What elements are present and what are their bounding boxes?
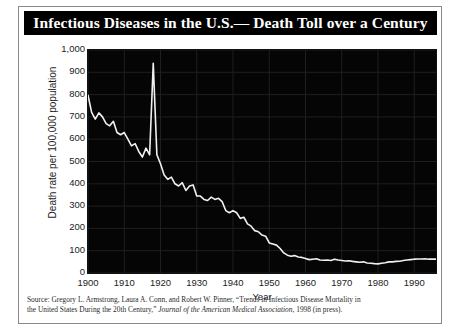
y-tick-label: 300 <box>39 200 85 210</box>
source-line-2: the United States During the 20th Centur… <box>27 305 431 315</box>
source-line-2-text-c: , 1998 (in press). <box>292 305 342 314</box>
y-tick-label: 900 <box>39 66 85 76</box>
x-tick-label: 1940 <box>213 277 253 288</box>
x-tick-label: 1950 <box>249 277 289 288</box>
y-axis-tick-labels: 01002003004005006007008009001,000 <box>35 37 85 286</box>
figure-panel: Infectious Diseases in the U.S.— Death T… <box>18 6 442 324</box>
source-line-1: Source: Gregory L. Armstrong, Laura A. C… <box>27 295 431 305</box>
y-tick-label: 1,000 <box>39 44 85 54</box>
x-tick-label: 1910 <box>104 277 144 288</box>
page-title: Infectious Diseases in the U.S.— Death T… <box>33 14 427 32</box>
chart-title-bar: Infectious Diseases in the U.S.— Death T… <box>24 11 437 35</box>
y-tick-label: 600 <box>39 133 85 143</box>
y-tick-label: 400 <box>39 178 85 188</box>
x-tick-label: 1980 <box>358 277 398 288</box>
x-axis-tick-labels: 1900191019201930194019501960197019801990 <box>87 277 439 291</box>
x-tick-label: 1930 <box>177 277 217 288</box>
chart-area: Death rate per 100,000 population 010020… <box>19 37 441 292</box>
x-tick-label: 1990 <box>394 277 434 288</box>
x-tick-label: 1920 <box>141 277 181 288</box>
series-line-infectious-disease-mortality <box>88 63 436 263</box>
x-tick-label: 1970 <box>322 277 362 288</box>
y-tick-label: 800 <box>39 89 85 99</box>
source-journal-name: Journal of the American Medical Associat… <box>158 305 292 314</box>
x-tick-label: 1960 <box>286 277 326 288</box>
y-tick-label: 200 <box>39 222 85 232</box>
source-citation: Source: Gregory L. Armstrong, Laura A. C… <box>27 295 431 315</box>
plot-area <box>87 49 437 274</box>
y-tick-label: 500 <box>39 156 85 166</box>
y-tick-label: 0 <box>39 267 85 277</box>
x-tick-label: 1900 <box>68 277 108 288</box>
gridlines <box>88 50 436 273</box>
data-line-chart <box>88 50 436 273</box>
source-line-2-text-a: the United States During the 20th Centur… <box>27 305 158 314</box>
y-tick-label: 700 <box>39 111 85 121</box>
y-tick-label: 100 <box>39 245 85 255</box>
